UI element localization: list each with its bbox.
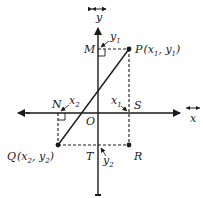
Q-name: Q bbox=[7, 150, 16, 163]
label-P: P(x1, y1) bbox=[134, 43, 180, 58]
label-y1-main: y1 bbox=[109, 30, 121, 45]
y1-pointer-arrow bbox=[101, 41, 109, 47]
point-P bbox=[127, 47, 132, 52]
label-x2: x2 bbox=[69, 94, 80, 109]
point-R bbox=[127, 143, 132, 148]
right-angle-marker-M bbox=[98, 49, 105, 56]
P-name: P bbox=[134, 43, 143, 56]
label-N: N bbox=[51, 98, 62, 111]
y1-sub: 1 bbox=[116, 37, 120, 45]
x1-pointer-arrow bbox=[121, 106, 127, 111]
Q-comma: , bbox=[32, 150, 39, 163]
point-Q bbox=[56, 143, 61, 148]
x2-pointer-arrow bbox=[61, 105, 69, 111]
x-axis-label: x bbox=[190, 112, 197, 125]
right-angle-marker-N bbox=[58, 113, 65, 120]
label-y2: y2 bbox=[102, 154, 114, 169]
x2-sub: 2 bbox=[74, 101, 80, 109]
label-O: O bbox=[86, 115, 95, 128]
x1-sub: 1 bbox=[117, 101, 121, 109]
label-R: R bbox=[133, 150, 142, 163]
label-M: M bbox=[83, 43, 96, 56]
coordinate-diagram: y x M y1 P(x1, y1) N x2 x1 S O Q(x2, y2)… bbox=[0, 0, 203, 198]
label-T: T bbox=[86, 150, 95, 163]
Q-close-paren: ) bbox=[49, 150, 54, 163]
x-axis-double-arrow-icon bbox=[186, 106, 200, 110]
label-x1: x1 bbox=[111, 94, 122, 109]
P-close-paren: ) bbox=[175, 43, 180, 56]
y-axis-label: y bbox=[95, 11, 103, 24]
P-comma: , bbox=[158, 43, 165, 56]
label-Q: Q(x2, y2) bbox=[7, 150, 54, 165]
label-S: S bbox=[134, 99, 142, 112]
y2-sub: 2 bbox=[108, 161, 114, 169]
